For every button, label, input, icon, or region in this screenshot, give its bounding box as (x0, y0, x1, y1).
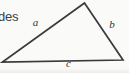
triangle-svg: a b c (0, 0, 129, 73)
side-a-label: a (33, 16, 39, 28)
side-b-label: b (109, 18, 115, 30)
triangle-diagram: des a b c (0, 0, 129, 73)
side-c-label: c (66, 57, 71, 69)
triangle-outline (3, 3, 124, 62)
